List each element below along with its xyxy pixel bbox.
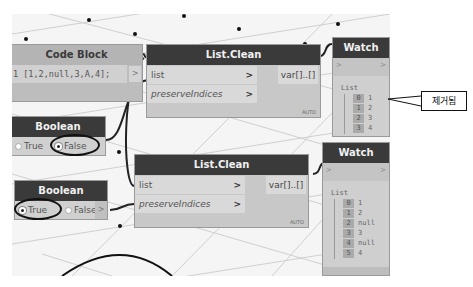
callout-pointer: [0, 0, 473, 287]
annotation-callout: 제거됨: [421, 91, 467, 111]
